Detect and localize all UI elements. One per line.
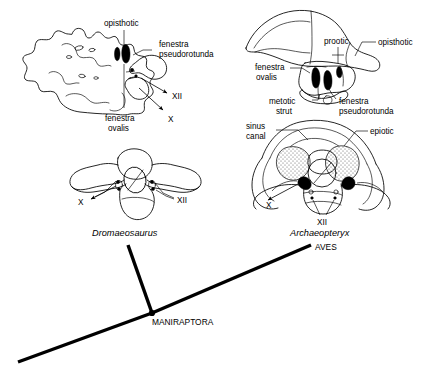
dromaeosaurus-posterior-condyle-line: [128, 170, 143, 190]
label-prootic-archaeopteryx: prootic: [324, 37, 349, 46]
label-nerve-x-archaeopteryx-posterior: X: [266, 201, 272, 210]
label-fenestra-pseudorotunda-archaeopteryx-line2: pseudorotunda: [339, 107, 394, 116]
dromaeosaurus-lateral-foramen-d: [79, 74, 86, 78]
archaeopteryx-posterior-lower-wing-left: [253, 185, 305, 210]
label-nerve-x-dromaeosaurus-lateral: X: [168, 115, 174, 124]
dromaeosaurus-posterior-supraoccipital: [117, 149, 152, 179]
cladogram: MANIRAPTORA AVES: [18, 242, 337, 362]
panel-archaeopteryx-posterior: sinus canal epiotic X XII Archaeopteryx: [246, 120, 394, 238]
dromaeosaurus-lateral-outline: [23, 28, 154, 115]
archaeopteryx-posterior-basal-crease-2: [306, 201, 341, 205]
label-fenestra-ovalis-archaeopteryx-line2: ovalis: [256, 73, 277, 82]
dromaeosaurus-posterior-condyle: [122, 165, 149, 195]
archaeopteryx-small-foramen: [337, 67, 343, 78]
dromaeosaurus-posterior-basal-crease: [122, 197, 154, 202]
archaeopteryx-lateral-suture-1: [310, 11, 312, 64]
cladogram-aves-branch: [152, 245, 311, 313]
label-epiotic: epiotic: [370, 127, 394, 136]
label-fenestra-ovalis-archaeopteryx-line1: fenestra: [255, 63, 285, 72]
panel-dromaeosaurus-lateral: opisthotic fenestra pseudorotunda fenest…: [23, 19, 214, 133]
label-sinus-canal-line1: sinus: [246, 122, 265, 131]
label-sinus-canal-line2: canal: [246, 132, 266, 141]
label-metotic-strut-line1: metotic: [269, 97, 295, 106]
taxon-label-dromaeosaurus: Dromaeosaurus: [92, 228, 158, 238]
label-metotic-strut-line2: strut: [276, 107, 293, 116]
dromaeosaurus-posterior-xii-foramen-1: [118, 188, 121, 191]
label-fenestra-ovalis-dromaeosaurus-line1: fenestra: [105, 114, 135, 123]
label-aves: AVES: [315, 242, 337, 252]
dromaeosaurus-posterior-x-foramen: [116, 180, 119, 183]
dromaeosaurus-posterior-basioccipital: [120, 189, 155, 220]
dromaeosaurus-lateral-foramen-a: [74, 45, 83, 51]
label-maniraptora: MANIRAPTORA: [152, 317, 214, 327]
panel-archaeopteryx-lateral: prootic opisthotic fenestra ovalis metot…: [246, 10, 413, 116]
taxon-label-archaeopteryx: Archaeopteryx: [289, 228, 350, 238]
panel-dromaeosaurus-posterior: X XII Dromaeosaurus: [70, 149, 201, 238]
label-opisthotic-archaeopteryx: opisthotic: [378, 38, 413, 47]
label-fenestra-pseudorotunda-dromaeosaurus-line2: pseudorotunda: [159, 50, 214, 59]
archaeopteryx-posterior-wing-left-inner: [263, 158, 274, 201]
label-nerve-xii-dromaeosaurus-posterior: XII: [177, 196, 187, 205]
cladogram-main-branch: [18, 313, 152, 362]
archaeopteryx-lateral-suture-3: [255, 49, 310, 53]
dromaeosaurus-fenestra-pseudorotunda-fill: [122, 44, 130, 63]
leader-x-archaeopteryx-curve: [272, 181, 297, 191]
archaeopteryx-fenestra-pseudorotunda-fill: [324, 71, 332, 90]
leader-fenestra-right-archaeopteryx: [357, 182, 383, 192]
dromaeosaurus-lateral-notch: [110, 93, 125, 111]
dromaeosaurus-lateral-foramen-b: [89, 48, 95, 52]
dromaeosaurus-lateral-foramen-c: [66, 56, 71, 59]
archaeopteryx-fenestra-ovalis-fill: [312, 68, 320, 88]
archaeopteryx-lateral-suture-2: [346, 43, 350, 67]
dromaeosaurus-lateral-fold-3: [66, 94, 109, 104]
arrow-x-archaeopteryx-posterior: [268, 184, 298, 200]
figure-root: opisthotic fenestra pseudorotunda fenest…: [0, 0, 439, 382]
label-nerve-x-dromaeosaurus-posterior: X: [78, 198, 84, 207]
dromaeosaurus-lateral-foramen-e: [94, 77, 98, 80]
label-nerve-xii-archaeopteryx-posterior: XII: [317, 218, 327, 227]
label-fenestra-pseudorotunda-archaeopteryx-line1: fenestra: [339, 97, 369, 106]
arrow-xii-lateral: [141, 78, 167, 93]
dromaeosaurus-fenestra-ovalis-fill: [115, 47, 121, 60]
label-fenestra-pseudorotunda-dromaeosaurus-line1: fenestra: [159, 40, 189, 49]
leader-x-dromaeosaurus-extra: [95, 181, 116, 197]
cladogram-maniraptora-node: [149, 310, 155, 316]
archaeopteryx-otic-capsule-left: [276, 147, 310, 181]
dromaeosaurus-lateral-fold-1: [62, 44, 111, 67]
dromaeosaurus-posterior-xii-foramen-3: [152, 188, 155, 191]
cladogram-dromaeosaurus-branch: [128, 245, 152, 313]
archaeopteryx-posterior-wing-left: [252, 158, 278, 209]
dromaeosaurus-posterior-xii-foramen-2: [150, 180, 153, 183]
label-opisthotic-dromaeosaurus: opisthotic: [104, 19, 139, 28]
label-fenestra-ovalis-dromaeosaurus-line2: ovalis: [108, 124, 129, 133]
archaeopteryx-occipital-condyle: [323, 96, 332, 105]
label-nerve-xii-dromaeosaurus-lateral: XII: [172, 92, 182, 101]
archaeopteryx-posterior-basal-crease-1: [304, 191, 342, 195]
figure-canvas: opisthotic fenestra pseudorotunda fenest…: [0, 0, 439, 382]
archaeopteryx-posterior-xii-foramen-right: [334, 197, 337, 200]
archaeopteryx-posterior-xii-foramen-left: [311, 197, 314, 200]
dromaeosaurus-lateral-fold-2: [49, 72, 79, 85]
